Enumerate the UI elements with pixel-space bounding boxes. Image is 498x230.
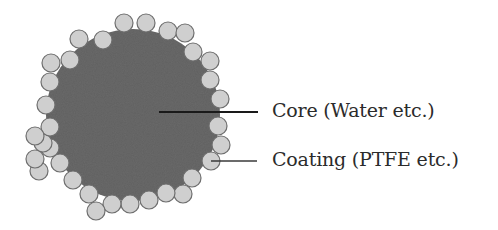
coating-particle xyxy=(201,52,219,70)
coating-particle xyxy=(80,185,98,203)
coating-particle xyxy=(115,14,133,32)
coating-particle xyxy=(41,73,59,91)
coating-particle xyxy=(64,171,82,189)
coating-particle xyxy=(94,31,112,49)
coating-particle xyxy=(137,14,155,32)
coating-particle xyxy=(42,54,60,72)
coating-particle xyxy=(209,117,227,135)
coating-particle xyxy=(184,43,202,61)
coating-particle xyxy=(174,185,192,203)
coating-particle xyxy=(201,71,219,89)
coating-particle xyxy=(183,169,201,187)
coating-particle xyxy=(121,195,139,213)
coating-particle xyxy=(212,136,230,154)
coating-particle xyxy=(70,30,88,48)
coating-particle xyxy=(159,22,177,40)
coating-particle xyxy=(87,202,105,220)
coating-particle xyxy=(37,96,55,114)
coating-particle xyxy=(26,127,44,145)
coating-particle xyxy=(157,184,175,202)
coating-particle xyxy=(140,191,158,209)
core-label: Core (Water etc.) xyxy=(272,99,435,121)
coating-particle xyxy=(176,24,194,42)
coating-label: Coating (PTFE etc.) xyxy=(272,148,459,170)
coating-particle xyxy=(211,90,229,108)
coating-particle xyxy=(61,51,79,69)
coating-particle xyxy=(103,195,121,213)
coating-particle xyxy=(26,150,44,168)
